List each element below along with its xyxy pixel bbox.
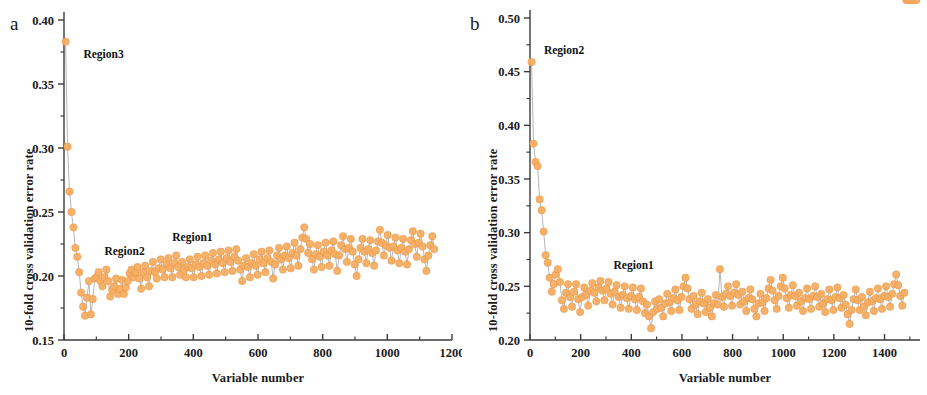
x-tick-label: 400 xyxy=(184,346,203,360)
x-tick-label: 200 xyxy=(119,346,138,360)
figure-root: a 0.150.200.250.300.350.4002004006008001… xyxy=(0,0,927,395)
region-annotation: Region2 xyxy=(104,246,144,258)
x-tick-label: 800 xyxy=(723,346,742,360)
y-tick-label: 0.50 xyxy=(498,12,520,26)
panel-b-plot: 0.200.250.300.350.400.450.50020040060080… xyxy=(462,0,927,395)
region-annotation: Region2 xyxy=(544,45,584,57)
panel-a-x-axis-title: Variable number xyxy=(64,371,452,386)
x-tick-label: 1200 xyxy=(821,346,846,360)
series-markers xyxy=(62,38,438,319)
panel-a-plot: 0.150.200.250.300.350.400200400600800100… xyxy=(0,0,462,395)
region-annotation: Region1 xyxy=(172,232,212,244)
y-tick-label: 0.25 xyxy=(498,280,520,294)
y-tick-label: 0.15 xyxy=(32,334,54,348)
x-tick-label: 600 xyxy=(249,346,268,360)
y-tick-label: 0.45 xyxy=(498,65,520,79)
panel-b: b 0.200.250.300.350.400.450.500200400600… xyxy=(462,0,927,395)
y-tick-label: 0.40 xyxy=(32,14,54,28)
y-tick-label: 0.20 xyxy=(498,334,520,348)
region-annotation: Region1 xyxy=(614,260,654,272)
series-markers xyxy=(528,0,920,332)
y-tick-label: 0.40 xyxy=(498,119,520,133)
x-tick-label: 600 xyxy=(673,346,692,360)
panel-a-y-axis-title: 10-fold cross validation error rate xyxy=(22,149,37,332)
y-tick-label: 0.35 xyxy=(498,173,520,187)
panel-b-y-axis-title: 10-fold cross validation error rate xyxy=(486,149,501,332)
x-tick-label: 1400 xyxy=(872,346,897,360)
x-tick-label: 400 xyxy=(622,346,641,360)
x-tick-label: 1000 xyxy=(771,346,796,360)
x-tick-label: 200 xyxy=(571,346,590,360)
x-tick-label: 1000 xyxy=(375,346,400,360)
x-tick-label: 800 xyxy=(313,346,332,360)
x-tick-label: 0 xyxy=(61,346,67,360)
panel-a: a 0.150.200.250.300.350.4002004006008001… xyxy=(0,0,462,395)
panel-b-x-axis-title: Variable number xyxy=(530,371,920,386)
y-tick-label: 0.35 xyxy=(32,78,54,92)
y-tick-label: 0.30 xyxy=(498,226,520,240)
x-tick-label: 1200 xyxy=(440,346,463,360)
x-tick-label: 0 xyxy=(527,346,533,360)
region-annotation: Region3 xyxy=(83,49,123,61)
